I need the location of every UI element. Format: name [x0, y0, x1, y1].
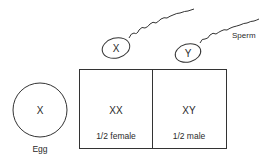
- sperm-x-tail: [129, 9, 194, 38]
- sperm-y-chromosome: Y: [185, 48, 192, 59]
- sperm-x: X: [100, 9, 194, 61]
- egg-label: Egg: [32, 144, 47, 154]
- sperm-x-chromosome: X: [113, 43, 120, 54]
- outcome-male: XY 1/2 male: [173, 105, 206, 141]
- outcome-female-description: 1/2 female: [96, 131, 136, 141]
- outcome-female-genotype: XX: [109, 105, 123, 116]
- egg: X Egg: [13, 83, 67, 154]
- outcome-male-description: 1/2 male: [173, 131, 206, 141]
- outcome-female: XX 1/2 female: [96, 105, 136, 141]
- sperm-label: Sperm: [232, 31, 256, 40]
- egg-chromosome: X: [37, 105, 44, 116]
- outcome-male-genotype: XY: [182, 105, 196, 116]
- sperm-y: Y: [173, 19, 259, 65]
- sex-determination-diagram: X Y Sperm X Egg XX 1/2 female XY 1/2 mal…: [0, 0, 272, 160]
